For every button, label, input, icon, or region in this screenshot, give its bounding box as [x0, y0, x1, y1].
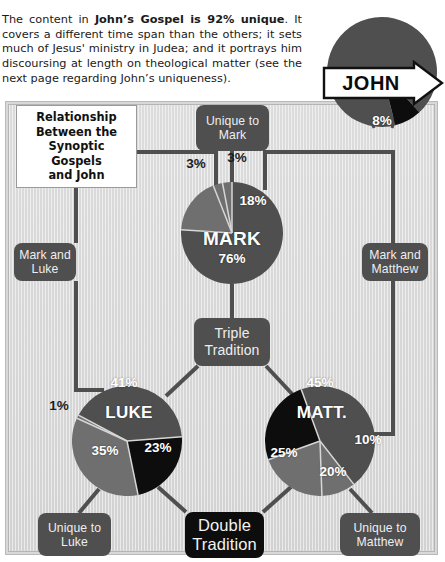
diagram-title-text: Relationship Between the Synoptic Gospel… [36, 110, 117, 183]
title-line-5: and John [48, 168, 104, 182]
luke-23-label: 23% [138, 440, 178, 455]
matt-20-label: 20% [313, 464, 353, 479]
wire-mark-to-markmatthew [265, 152, 393, 243]
title-line-1: Relationship [36, 110, 116, 124]
mark-name-label: MARK [192, 228, 272, 250]
john-banner-label: JOHN [330, 69, 412, 97]
title-line-4: Gospels [51, 154, 102, 168]
chip-unique-to-matthew[interactable]: Unique to Matthew [340, 513, 420, 556]
mark-18-label: 18% [236, 193, 270, 208]
luke-name-label: LUKE [89, 403, 169, 423]
chip-mark-and-matthew[interactable]: Mark and Matthew [362, 243, 428, 281]
wire-markluke-to-luke [76, 281, 104, 390]
diagram-page: The content in John’s Gospel is 92% uniq… [0, 0, 445, 562]
chip-triple-tradition[interactable]: Triple Tradition [194, 318, 270, 366]
chip-double-tradition[interactable]: Double Tradition [185, 512, 264, 558]
matt-25-label: 25% [264, 445, 304, 460]
matt-45-label: 45% [300, 375, 340, 390]
mark-76-label: 76% [199, 251, 265, 266]
john-banner: JOHN [322, 60, 445, 106]
chip-unique-to-mark[interactable]: Unique to Mark [196, 105, 269, 151]
matt-10-label: 10% [348, 432, 388, 447]
chip-mark-and-luke[interactable]: Mark and Luke [14, 243, 76, 281]
title-line-2: Between the [36, 125, 117, 139]
luke-35-label: 35% [85, 443, 125, 458]
mark-3-right-label: 3% [222, 150, 252, 165]
chip-unique-to-luke[interactable]: Unique to Luke [38, 513, 111, 556]
john-8-percent-label: 8% [367, 113, 397, 128]
diagram-title-card: Relationship Between the Synoptic Gospel… [16, 105, 137, 188]
mark-3-left-label: 3% [181, 156, 211, 171]
luke-41-label: 41% [104, 375, 144, 390]
matt-name-label: MATT. [282, 403, 362, 423]
title-line-3: Synoptic [49, 139, 105, 153]
luke-1-label: 1% [44, 398, 74, 413]
